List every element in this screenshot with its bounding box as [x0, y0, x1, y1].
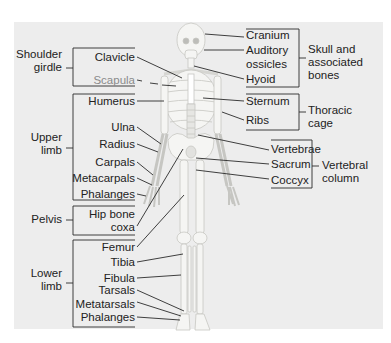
label-coxa: coxa: [60, 221, 135, 234]
label-carpals: Carpals: [60, 156, 135, 169]
group-label-line: Upper: [16, 131, 62, 144]
label-ossicles: ossicles: [246, 58, 287, 71]
group-label-line: limb: [16, 280, 62, 293]
label-tibia: Tibia: [60, 256, 135, 269]
group-label-line: Shoulder: [16, 48, 62, 61]
label-vertebrae: Vertebrae: [271, 143, 321, 156]
group-label-line: Lower: [16, 267, 62, 280]
label-auditory: Auditory: [246, 44, 288, 57]
label-coccyx: Coccyx: [271, 174, 309, 187]
label-ribs: Ribs: [246, 114, 269, 127]
label-hip-bone: Hip bone: [60, 208, 135, 221]
label-radius: Radius: [60, 138, 135, 151]
label-phalanges-foot: Phalanges: [60, 311, 135, 324]
group-label-vertebral-column: Vertebral column: [322, 159, 368, 185]
group-label-line: bones: [308, 69, 363, 82]
group-label-line: girdle: [16, 61, 62, 74]
group-label-lower-limb: Lower limb: [16, 267, 62, 293]
group-label-line: Pelvis: [16, 213, 62, 226]
group-label-line: Vertebral: [322, 159, 368, 172]
label-phalanges-hand: Phalanges: [60, 188, 135, 201]
group-label-line: limb: [16, 144, 62, 157]
group-label-shoulder-girdle: Shoulder girdle: [16, 48, 62, 74]
group-label-line: Thoracic: [308, 104, 352, 117]
label-humerus: Humerus: [60, 95, 135, 108]
label-metacarpals: Metacarpals: [60, 172, 135, 185]
skeleton-bones: [144, 23, 239, 330]
group-label-line: column: [322, 172, 368, 185]
group-label-line: cage: [308, 117, 352, 130]
label-femur: Femur: [60, 241, 135, 254]
label-clavicle: Clavicle: [60, 51, 135, 64]
label-sternum: Sternum: [246, 95, 289, 108]
label-tarsals: Tarsals: [60, 284, 135, 297]
label-cranium: Cranium: [246, 29, 289, 42]
group-label-line: Skull and: [308, 43, 363, 56]
label-scapula: Scapula: [60, 74, 135, 87]
group-label-thoracic-cage: Thoracic cage: [308, 104, 352, 130]
label-hyoid: Hyoid: [246, 73, 275, 86]
label-sacrum: Sacrum: [271, 158, 311, 171]
group-label-pelvis: Pelvis: [16, 213, 62, 226]
group-label-upper-limb: Upper limb: [16, 131, 62, 157]
label-ulna: Ulna: [60, 121, 135, 134]
group-label-skull-associated-bones: Skull and associated bones: [308, 43, 363, 82]
group-label-line: associated: [308, 56, 363, 69]
label-metatarsals: Metatarsals: [60, 298, 135, 311]
